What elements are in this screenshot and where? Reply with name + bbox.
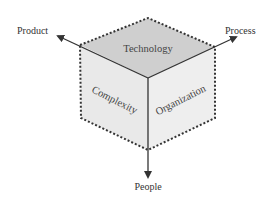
process-label: Process	[225, 25, 256, 36]
people-label: People	[134, 181, 162, 192]
cube-diagram: Technology Complexity Organization Produ…	[0, 0, 275, 203]
technology-label: Technology	[123, 43, 173, 54]
product-label: Product	[17, 25, 48, 36]
